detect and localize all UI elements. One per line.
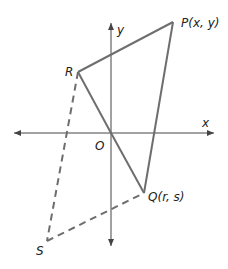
- coordinate-diagram: y x O P(x, y) R Q(r, s) S: [0, 0, 228, 269]
- origin-label: O: [95, 139, 104, 153]
- segment-oq: [111, 133, 144, 193]
- segment-ro: [78, 72, 111, 133]
- segment-rp: [78, 22, 173, 72]
- point-s-label: S: [36, 244, 44, 258]
- segment-rs-dashed: [47, 72, 78, 241]
- segment-pq: [144, 22, 173, 193]
- point-r-label: R: [65, 65, 73, 79]
- x-axis-label: x: [201, 116, 210, 130]
- point-p-label: P(x, y): [181, 16, 219, 30]
- point-q-label: Q(r, s): [148, 190, 185, 204]
- segment-sq-dashed: [47, 193, 144, 241]
- y-axis-label: y: [116, 23, 125, 37]
